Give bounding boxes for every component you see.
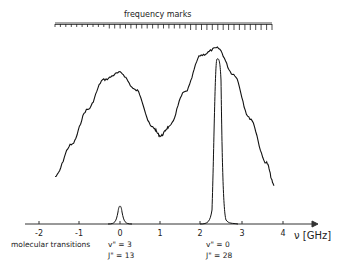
transition-1-j: J" = 13 [108, 251, 134, 260]
transition-1-v: v" = 3 [108, 240, 132, 249]
x-axis [25, 221, 318, 227]
transition-2-j: J" = 28 [206, 251, 232, 260]
spectrum-plot [0, 0, 341, 266]
transition-peak-2 [200, 59, 238, 224]
transition-2-v: v" = 0 [206, 240, 230, 249]
tick-label: 1 [157, 229, 162, 238]
broad-spectrum-curve [55, 47, 274, 185]
frequency-marks-comb [55, 23, 272, 30]
tick-label: 3 [239, 229, 244, 238]
x-axis-label: ν [GHz] [294, 230, 331, 241]
tick-label: -2 [35, 229, 43, 238]
tick-label: -1 [75, 229, 83, 238]
tick-label: 4 [280, 229, 285, 238]
tick-label: 0 [117, 229, 122, 238]
molecular-transitions-label: molecular transitions [11, 240, 90, 249]
tick-label: 2 [197, 229, 202, 238]
